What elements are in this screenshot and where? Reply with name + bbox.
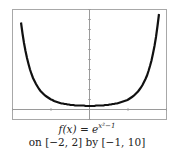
function-caption: f(x) = ex²−1 bbox=[0, 123, 174, 135]
function-exponent: x²−1 bbox=[98, 122, 115, 130]
function-lhs: f(x) = e bbox=[59, 123, 99, 135]
function-plot bbox=[0, 0, 174, 122]
viewing-window-caption: on [−2, 2] by [−1, 10] bbox=[0, 136, 174, 148]
